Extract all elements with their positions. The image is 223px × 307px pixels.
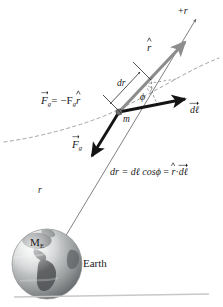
label-d-ell-vector: dℓ xyxy=(190,105,199,115)
label-earth-mass: ME xyxy=(30,237,44,250)
label-dr-formula: dr = dℓ cosϕ = r ·dℓ xyxy=(110,167,188,177)
dashed-trajectory-path xyxy=(4,58,219,142)
label-earth: Earth xyxy=(83,258,107,269)
diagram-canvas xyxy=(0,0,223,307)
label-force-vector: F g xyxy=(72,139,82,152)
label-force-equation: F g= −Fgr xyxy=(41,95,80,108)
label-dr: dr xyxy=(117,79,125,89)
physics-diagram: +r r dr ϕ m dℓ F xyxy=(0,0,223,307)
label-radius: r xyxy=(38,186,42,196)
label-positive-r: +r xyxy=(178,6,188,16)
label-phi-angle: ϕ xyxy=(140,92,145,102)
label-r-hat: r xyxy=(147,42,151,53)
earth-globe-icon xyxy=(12,229,82,299)
gravity-force-vector-arrow xyxy=(92,112,119,156)
label-mass: m xyxy=(123,115,130,125)
mass-point-dot xyxy=(116,109,122,115)
